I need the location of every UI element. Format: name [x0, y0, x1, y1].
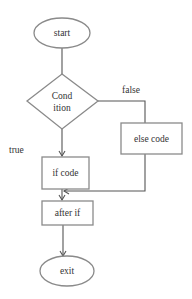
- condition-label-line2: ition: [53, 103, 71, 113]
- condition-label-line1: Cond: [52, 91, 73, 101]
- exit-label: exit: [60, 266, 75, 276]
- else-code-label: else code: [134, 134, 169, 144]
- after-if-label: after if: [55, 208, 81, 218]
- if-code-node: if code: [42, 157, 89, 189]
- if-code-label: if code: [52, 168, 78, 178]
- exit-node: exit: [40, 256, 94, 286]
- start-label: start: [54, 28, 71, 38]
- else-code-node: else code: [121, 123, 182, 154]
- edge-label-false: false: [122, 85, 140, 95]
- edge-condition-to-else-code: [98, 101, 145, 123]
- after-if-node: after if: [42, 201, 93, 225]
- condition-node: Cond ition: [27, 74, 98, 129]
- start-node: start: [34, 18, 90, 48]
- edge-label-true: true: [9, 145, 24, 155]
- flowchart-canvas: start Cond ition true false else code if…: [0, 0, 192, 299]
